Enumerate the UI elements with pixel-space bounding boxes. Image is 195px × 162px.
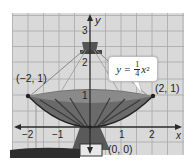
x-axis-label: x: [175, 130, 182, 141]
equation-callout: y = 1 4 x2: [108, 56, 158, 82]
x-tick-neg2: −2: [22, 129, 34, 140]
y-tick-1: 1: [82, 90, 88, 101]
ground-shadow: [10, 148, 80, 158]
point-origin: [88, 125, 92, 129]
coordinate-plane: −2 −1 1 2 1 2 3 x y (−2, 1) (2, 1) (0, 0…: [0, 0, 195, 162]
equation-lhs: y: [116, 63, 121, 75]
equation-exponent: 2: [146, 65, 150, 73]
x-tick-1: 1: [119, 129, 125, 140]
x-tick-neg1: −1: [52, 129, 64, 140]
parabola-dish-figure: −2 −1 1 2 1 2 3 x y (−2, 1) (2, 1) (0, 0…: [0, 0, 195, 162]
label-point-2-1: (2, 1): [155, 82, 180, 94]
equation-equals: =: [124, 63, 130, 75]
label-point-origin: (0, 0): [108, 143, 133, 155]
equation-fraction: 1 4: [134, 61, 140, 78]
point-2-1: [151, 94, 155, 98]
y-tick-2: 2: [82, 57, 88, 68]
point-neg2-1: [26, 94, 30, 98]
y-tick-3: 3: [82, 25, 88, 36]
fraction-denominator: 4: [135, 70, 139, 78]
x-tick-2: 2: [149, 129, 155, 140]
label-point-neg2-1: (−2, 1): [16, 72, 47, 84]
